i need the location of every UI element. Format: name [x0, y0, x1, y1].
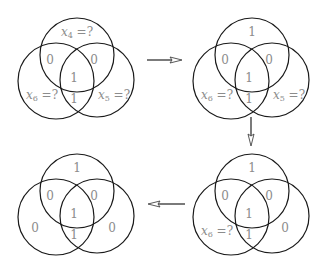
region-center: 1: [245, 71, 253, 85]
region-left-right: 1: [245, 92, 253, 106]
venn-panel-step-3: 1 0 0 1 1 x6 =? 0: [193, 154, 309, 255]
region-top-only: x4 =?: [61, 25, 93, 40]
venn-panel-step-4: 1 0 0 1 1 0 0: [18, 154, 134, 255]
region-left-right: 1: [245, 228, 253, 242]
region-center: 1: [70, 207, 78, 221]
circle-left: [193, 43, 269, 119]
region-top-only: 1: [73, 161, 81, 175]
region-top-left: 0: [221, 189, 229, 203]
region-top-right: 0: [90, 53, 98, 67]
circle-left: [18, 179, 94, 255]
region-left-right: 1: [70, 228, 78, 242]
circle-left: [18, 43, 94, 119]
circle-left: [193, 179, 269, 255]
arrow-down-icon: [248, 117, 254, 146]
region-top-left: 0: [46, 189, 54, 203]
region-left-only: 0: [31, 221, 39, 235]
region-top-only: 1: [248, 161, 256, 175]
arrow-right-icon: [147, 57, 182, 63]
region-center: 1: [245, 207, 253, 221]
region-right-only: x5 =?: [273, 88, 305, 103]
region-left-only: x6 =?: [26, 88, 58, 103]
region-center: 1: [70, 71, 78, 85]
region-top-right: 0: [265, 189, 273, 203]
region-top-right: 0: [265, 53, 273, 67]
region-left-only: x6 =?: [201, 224, 233, 239]
region-top-only: 1: [248, 25, 256, 39]
venn-panel-step-1: x4 =? 0 0 1 1 x6 =? x5 =?: [18, 18, 134, 119]
region-top-left: 0: [46, 53, 54, 67]
region-right-only: 0: [108, 221, 116, 235]
region-top-right: 0: [90, 189, 98, 203]
venn-diagram-sequence: x4 =? 0 0 1 1 x6 =? x5 =? 1 0 0 1 1 x6 =…: [0, 0, 328, 273]
region-left-only: x6 =?: [201, 88, 233, 103]
region-left-right: 1: [70, 92, 78, 106]
region-top-left: 0: [221, 53, 229, 67]
arrow-left-icon: [148, 201, 185, 207]
region-right-only: 0: [281, 221, 289, 235]
region-right-only: x5 =?: [98, 88, 130, 103]
venn-panel-step-2: 1 0 0 1 1 x6 =? x5 =?: [193, 18, 309, 119]
